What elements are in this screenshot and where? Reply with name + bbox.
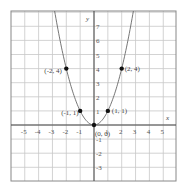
y-tick-label: 3	[96, 80, 100, 88]
y-tick-label: 1	[96, 108, 100, 116]
point-label: (1, 1)	[112, 107, 128, 115]
x-tick-label: -4	[35, 128, 41, 136]
x-tick-label: 4	[147, 128, 151, 136]
point-label: (0, 0)	[95, 130, 111, 138]
point-label: (-2, 4)	[44, 67, 62, 75]
x-tick-label: -2	[62, 128, 68, 136]
data-point	[64, 66, 68, 70]
data-point	[106, 109, 110, 113]
x-tick-label: -1	[76, 128, 82, 136]
x-tick-label: 2	[119, 128, 123, 136]
y-tick-label: 4	[96, 66, 100, 74]
point-label: (2, 4)	[125, 65, 141, 73]
point-label: (-1, 1)	[61, 109, 79, 117]
data-points: (-2, 4)(-1, 1)(0, 0)(1, 1)(2, 4)	[44, 65, 140, 138]
y-tick-label: -3	[96, 164, 102, 172]
y-tick-label: -2	[96, 150, 102, 158]
x-tick-label: 3	[133, 128, 137, 136]
data-point	[92, 123, 96, 127]
parabola-chart: -5-4-3-2-1123457654321-1-2-3 (-2, 4)(-1,…	[0, 0, 186, 193]
x-axis-label: x	[165, 114, 170, 122]
tick-labels: -5-4-3-2-1123457654321-1-2-3	[21, 23, 165, 172]
y-axis-label: y	[85, 15, 90, 23]
y-tick-label: 6	[96, 37, 100, 45]
data-point	[120, 66, 124, 70]
y-tick-label: 5	[96, 52, 100, 60]
x-tick-label: -5	[21, 128, 27, 136]
axes	[11, 11, 176, 181]
x-tick-label: 5	[161, 128, 165, 136]
y-tick-label: 2	[96, 94, 100, 102]
x-tick-label: -3	[49, 128, 55, 136]
y-tick-label: 7	[96, 23, 100, 31]
